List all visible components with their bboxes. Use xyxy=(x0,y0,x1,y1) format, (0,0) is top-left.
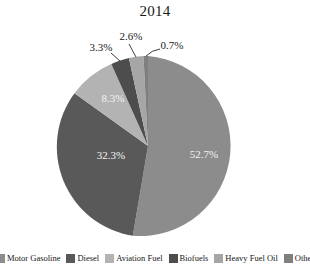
legend-swatch-icon xyxy=(284,254,293,263)
slice-value-motor-gasoline: 52.7% xyxy=(190,148,218,160)
leader-line-heavy-fuel-oil xyxy=(129,44,136,57)
pie-slices xyxy=(57,56,231,236)
pie-chart: 2014 52.7% 32.3% 8.3% xyxy=(0,0,310,272)
legend-label: Biofuels xyxy=(180,253,209,263)
legend-item-motor-gasoline[interactable]: Motor Gasoline xyxy=(0,253,60,263)
callout-value-heavy-fuel-oil: 2.6% xyxy=(120,30,143,42)
legend-label: Aviation Fuel xyxy=(116,253,162,263)
leader-line-biofuels xyxy=(111,53,120,61)
legend-item-other[interactable]: Other xyxy=(284,253,310,263)
slice-value-aviation-fuel: 8.3% xyxy=(102,92,125,104)
slice-value-diesel: 32.3% xyxy=(97,149,125,161)
legend-label: Other xyxy=(295,253,310,263)
legend-label: Heavy Fuel Oil xyxy=(225,253,277,263)
legend-swatch-icon xyxy=(105,254,114,263)
legend-swatch-icon xyxy=(169,254,178,263)
legend-label: Motor Gasoline xyxy=(7,253,61,263)
pie-plot-area: 52.7% 32.3% 8.3% 3.3% 2.6% 0.7% xyxy=(0,0,310,248)
legend-label: Diesel xyxy=(77,253,99,263)
legend-item-aviation-fuel[interactable]: Aviation Fuel xyxy=(105,253,162,263)
callout-value-other: 0.7% xyxy=(161,39,184,51)
legend-swatch-icon xyxy=(66,254,75,263)
legend-item-diesel[interactable]: Diesel xyxy=(66,253,99,263)
legend-item-biofuels[interactable]: Biofuels xyxy=(169,253,209,263)
leader-line-other xyxy=(146,49,160,56)
chart-legend: Motor Gasoline Diesel Aviation Fuel Biof… xyxy=(0,250,310,266)
legend-item-heavy-fuel-oil[interactable]: Heavy Fuel Oil xyxy=(214,253,277,263)
legend-swatch-icon xyxy=(0,254,5,263)
callout-value-biofuels: 3.3% xyxy=(90,41,113,53)
legend-swatch-icon xyxy=(214,254,223,263)
pie-svg: 52.7% 32.3% 8.3% 3.3% 2.6% 0.7% xyxy=(0,0,310,248)
